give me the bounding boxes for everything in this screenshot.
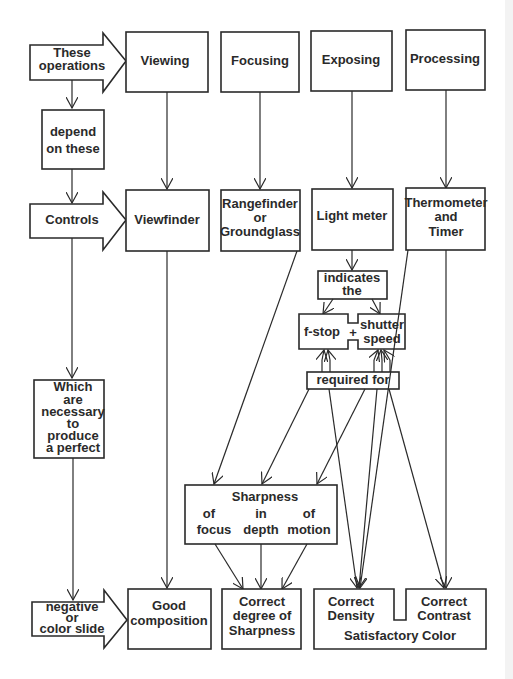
sharpness-focus: focus: [197, 522, 232, 537]
processing-label: Processing: [410, 51, 480, 66]
viewfinder-box: Viewfinder: [126, 190, 209, 251]
processing-box: Processing: [406, 30, 485, 90]
correct-sharpness-box: Correct degree of Sharpness: [222, 589, 301, 649]
arrow-required-to-sharpness-depth: [262, 389, 309, 484]
correct-sharpness-line3: Sharpness: [229, 623, 295, 638]
correct-density-line1: Correct: [328, 594, 375, 609]
rangefinder-line3: Groundglass: [220, 224, 300, 239]
correct-contrast-line2: Contrast: [417, 608, 471, 623]
sharpness-in: in: [255, 506, 267, 521]
sharpness-depth: depth: [243, 522, 278, 537]
thermometer-line3: Timer: [428, 224, 463, 239]
arrow-focus-to-correct-sharpness: [215, 544, 243, 589]
good-composition-line1: Good: [152, 598, 186, 613]
arrow-req-to-fstop-a: [322, 350, 324, 360]
which-line6: a perfect: [46, 440, 101, 455]
these-operations-line2: operations: [39, 58, 105, 73]
focusing-box: Focusing: [221, 32, 299, 92]
satisfactory-color-box: Correct Density Correct Contrast Satisfa…: [314, 589, 486, 649]
rangefinder-line2: or: [254, 210, 267, 225]
depend-on-these-box: depend on these: [42, 110, 104, 169]
thermometer-line2: and: [434, 209, 457, 224]
arrow-thermometer-to-density: [360, 250, 408, 588]
required-for-label: required for: [317, 372, 390, 387]
viewfinder-label: Viewfinder: [134, 212, 200, 227]
good-composition-box: Good composition: [128, 589, 211, 649]
rangefinder-line1: Rangefinder: [222, 196, 298, 211]
arrow-req-to-fstop-b: [328, 350, 330, 360]
arrow-indicates-to-fstop: [323, 299, 333, 314]
arrow-required-to-sharpness-motion: [317, 389, 365, 484]
controls-arrow: Controls: [30, 192, 126, 250]
indicates-line2: the: [342, 283, 362, 298]
arrow-req-to-shutter-b: [381, 350, 382, 360]
arrow-rangefinder-to-sharpness-focus: [214, 251, 297, 484]
fstop-shutter-box: f-stop + shutter speed: [299, 314, 405, 349]
photography-flow-diagram: These operations depend on these Control…: [0, 0, 513, 679]
light-meter-label: Light meter: [317, 208, 388, 223]
thermometer-line1: Thermometer: [404, 195, 487, 210]
arrow-motion-to-correct-sharpness: [282, 544, 307, 589]
negative-line3: color slide: [39, 621, 104, 636]
viewing-box: Viewing: [126, 32, 208, 92]
correct-sharpness-line2: degree of: [233, 608, 292, 623]
which-necessary-box: Which are necessary to produce a perfect: [34, 379, 106, 458]
focusing-label: Focusing: [231, 53, 289, 68]
exposing-label: Exposing: [322, 52, 381, 67]
correct-sharpness-line1: Correct: [239, 594, 286, 609]
sharpness-box: Sharpness of focus in depth of motion: [185, 485, 337, 544]
arrow-req-to-shutter-c: [384, 350, 390, 360]
satisfactory-color-label: Satisfactory Color: [344, 628, 456, 643]
these-operations-arrow: These operations: [30, 33, 126, 92]
plus-label: +: [349, 325, 357, 340]
correct-density-line2: Density: [328, 608, 376, 623]
light-meter-box: Light meter: [312, 189, 393, 250]
correct-contrast-line1: Correct: [421, 594, 468, 609]
depend-line2: on these: [46, 141, 99, 156]
viewing-label: Viewing: [141, 53, 190, 68]
controls-label: Controls: [45, 212, 98, 227]
arrow-req-to-shutter-a: [374, 350, 378, 360]
good-composition-line2: composition: [130, 613, 207, 628]
sharpness-title: Sharpness: [232, 489, 298, 504]
required-for-box: required for: [307, 372, 399, 389]
fstop-label: f-stop: [304, 324, 340, 339]
thermometer-timer-box: Thermometer and Timer: [404, 188, 487, 250]
arrow-indicates-to-shutter: [372, 299, 380, 314]
indicates-the-box: indicates the: [318, 270, 387, 299]
exposing-box: Exposing: [311, 31, 392, 91]
sharpness-motion: motion: [287, 522, 330, 537]
arrow-required-to-contrast: [389, 389, 444, 588]
sharpness-of2: of: [303, 506, 316, 521]
sharpness-of1: of: [203, 506, 216, 521]
depend-line1: depend: [50, 124, 96, 139]
rangefinder-box: Rangefinder or Groundglass: [220, 190, 300, 251]
negative-or-slide-arrow: negative or color slide: [32, 590, 127, 648]
